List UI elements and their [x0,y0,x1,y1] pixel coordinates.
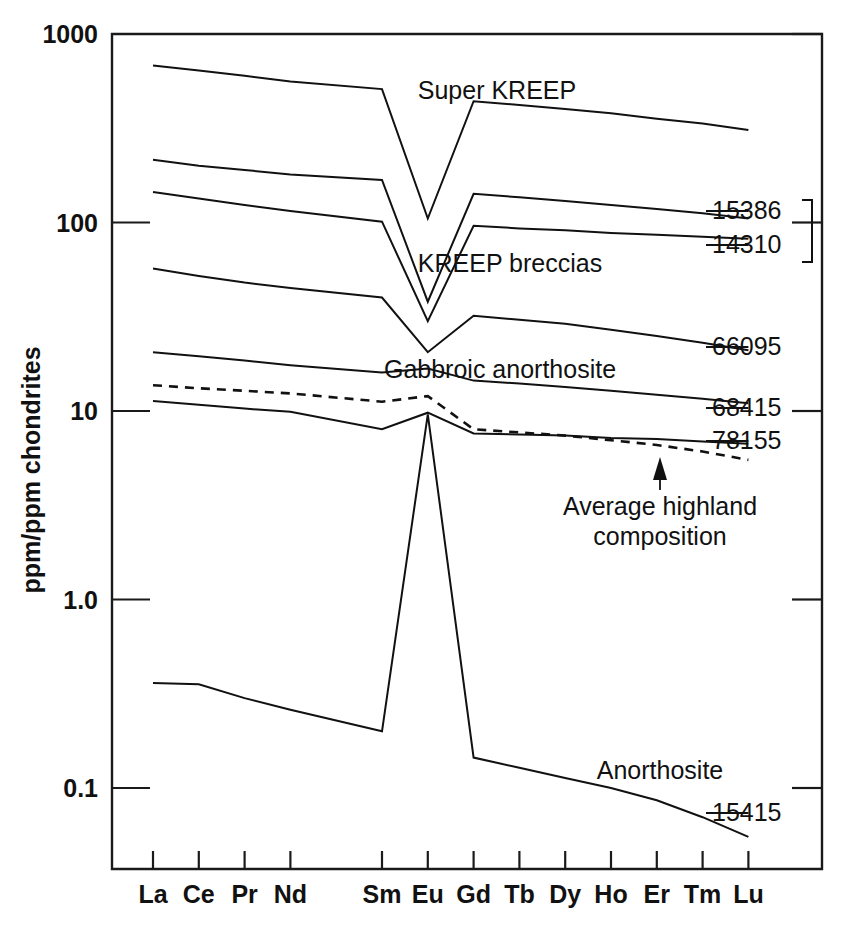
x-axis-tick-label: Tm [684,880,722,908]
x-axis-tick-label: La [138,880,168,908]
x-axis-tick-label: Lu [733,880,764,908]
y-axis-tick-label: 100 [56,209,98,237]
annotation-kreep-breccias: KREEP breccias [418,249,602,277]
x-axis-tick-label: Eu [412,880,444,908]
ree-chondrite-chart: 1000100101.00.1 LaCePrNdSmEuGdTbDyHoErTm… [0,0,844,931]
x-axis-tick-label: Dy [549,880,581,908]
sample-label-78155: 78155 [712,426,782,454]
x-axis-tick-label: Pr [231,880,258,908]
x-axis-tick-label: Gd [456,880,491,908]
x-axis-tick-label: Ho [594,880,627,908]
sample-label-15415: 15415 [712,798,782,826]
x-axis-tick-label: Nd [274,880,307,908]
y-axis-tick-label: 10 [70,397,98,425]
x-axis-tick-label: Sm [363,880,402,908]
chart-background [0,0,844,931]
y-axis-title: ppm/ppm chondrites [17,346,45,593]
sample-label-68415: 68415 [712,393,782,421]
y-axis-tick-label: 1000 [42,20,98,48]
sample-label-14310: 14310 [712,230,782,258]
annotation-average-highland-line1: Average highland [563,492,757,520]
annotation-average-highland-line2: composition [593,522,726,550]
x-axis-tick-label: Ce [183,880,215,908]
sample-label-66095: 66095 [712,332,782,360]
y-axis-tick-label: 0.1 [63,774,98,802]
annotation-gabbroic-anorthosite: Gabbroic anorthosite [384,355,616,383]
y-axis-tick-label: 1.0 [63,586,98,614]
annotation-super-kreep: Super KREEP [418,76,576,104]
x-axis-tick-label: Er [644,880,671,908]
annotation-anorthosite: Anorthosite [597,756,723,784]
x-axis-tick-label: Tb [504,880,535,908]
figure-root: 1000100101.00.1 LaCePrNdSmEuGdTbDyHoErTm… [0,0,844,931]
sample-label-15386: 15386 [712,196,782,224]
